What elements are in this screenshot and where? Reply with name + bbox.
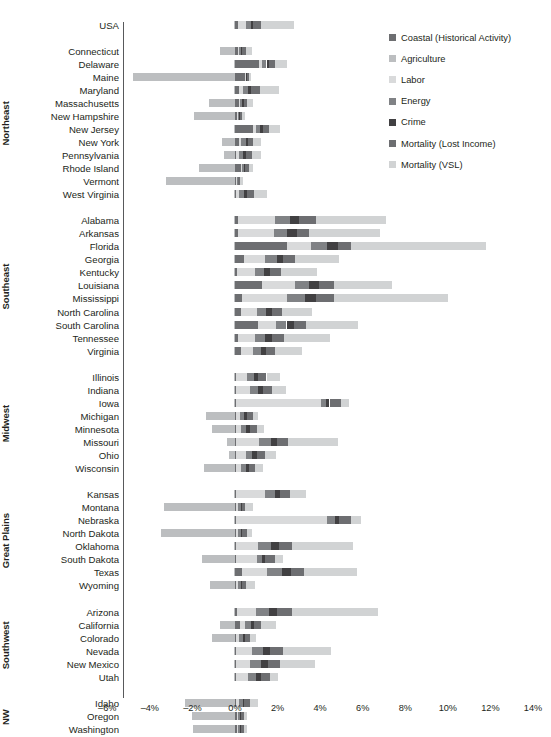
bar-segment (236, 490, 265, 498)
bar-row (123, 347, 551, 355)
bar-segment (266, 347, 275, 355)
bar-segment (275, 216, 291, 224)
bar-segment (234, 86, 235, 94)
legend-item[interactable]: Energy (389, 91, 549, 112)
row-label-column: USAConnecticutDelawareMaineMarylandMassa… (0, 0, 123, 737)
bar-segment (267, 568, 282, 576)
bar-segment (287, 229, 296, 237)
bar-row (123, 725, 551, 733)
bar-segment (234, 516, 235, 524)
bar-segment (238, 216, 275, 224)
bar-segment (306, 321, 358, 329)
bar-segment (247, 190, 254, 198)
row-label-colorado: Colorado (0, 634, 123, 644)
bar-segment (304, 568, 356, 576)
bar-segment (267, 373, 280, 381)
bar-segment (234, 399, 235, 407)
legend-swatch-icon (389, 140, 396, 147)
zero-axis-line (123, 22, 124, 698)
legend-item[interactable]: Mortality (VSL) (389, 154, 549, 175)
bar-segment (242, 112, 245, 120)
row-label-indiana: Indiana (0, 386, 123, 396)
bar-segment (261, 673, 270, 681)
bar-segment (283, 647, 331, 655)
bar-row (123, 438, 551, 446)
legend-item[interactable]: Mortality (Lost Income) (389, 133, 549, 154)
bar-segment (246, 47, 252, 55)
bar-segment (292, 542, 352, 550)
row-label-pennsylvania: Pennsylvania (0, 151, 123, 161)
bar-row (123, 229, 551, 237)
bar-segment (268, 660, 280, 668)
legend-label: Labor (401, 75, 425, 85)
legend-swatch-icon (389, 119, 396, 126)
bar-segment (234, 190, 235, 198)
row-label-kansas: Kansas (0, 490, 123, 500)
bar-segment (277, 438, 288, 446)
bar-segment (261, 21, 293, 29)
legend-item[interactable]: Labor (389, 69, 549, 90)
bar-segment (235, 73, 245, 81)
bar-segment (275, 555, 283, 563)
bar-segment (237, 608, 256, 616)
bar-segment (236, 438, 259, 446)
bar-segment (259, 438, 270, 446)
bar-row (123, 321, 551, 329)
row-label-west-virginia: West Virginia (0, 190, 123, 200)
bar-segment (234, 242, 235, 250)
legend-item[interactable]: Agriculture (389, 48, 549, 69)
bar-segment (242, 294, 287, 302)
bar-segment (235, 568, 242, 576)
bar-row (123, 464, 551, 472)
group-label-northeast: Northeast (0, 47, 18, 201)
bar-segment (271, 542, 279, 550)
bar-segment (244, 255, 266, 263)
bar-row (123, 412, 551, 420)
bar-row (123, 581, 551, 589)
row-label-illinois: Illinois (0, 373, 123, 383)
legend-label: Agriculture (401, 54, 445, 64)
bar-segment (222, 138, 235, 146)
bar-segment (281, 268, 317, 276)
bar-segment (133, 73, 235, 81)
bar-segment (238, 229, 274, 237)
bar-row (123, 647, 551, 655)
bar-segment (236, 542, 258, 550)
legend-label: Mortality (VSL) (401, 160, 462, 170)
bar-row (123, 190, 551, 198)
x-axis-tick-label: 12% (481, 703, 499, 713)
bar-segment (193, 725, 235, 733)
bar-segment (234, 334, 235, 342)
bar-segment (272, 386, 286, 394)
bar-row (123, 634, 551, 642)
group-label-great-plains: Great Plains (0, 490, 18, 591)
group-label-southeast: Southeast (0, 216, 18, 357)
bar-row (123, 294, 551, 302)
legend-item[interactable]: Coastal (Historical Activity) (389, 27, 549, 48)
bar-segment (299, 216, 316, 224)
bar-segment (253, 138, 260, 146)
bar-segment (234, 321, 235, 329)
bar-segment (234, 542, 235, 550)
bar-segment (234, 308, 235, 316)
row-label-north-dakota: North Dakota (0, 529, 123, 539)
bar-segment (263, 647, 270, 655)
bar-segment (236, 386, 250, 394)
bar-segment (220, 621, 235, 629)
bar-segment (210, 581, 235, 589)
row-label-texas: Texas (0, 568, 123, 578)
bar-segment (234, 21, 235, 29)
bar-segment (270, 647, 283, 655)
bar-segment (234, 490, 235, 498)
legend-item[interactable]: Crime (389, 112, 549, 133)
row-label-california: California (0, 621, 123, 631)
bar-segment (277, 608, 291, 616)
bar-segment (262, 281, 294, 289)
bar-segment (247, 99, 253, 107)
bar-segment (272, 334, 284, 342)
bar-segment (287, 242, 311, 250)
row-label-mississippi: Mississippi (0, 294, 123, 304)
bar-segment (234, 386, 235, 394)
bar-segment (250, 425, 257, 433)
bar-segment (250, 386, 258, 394)
